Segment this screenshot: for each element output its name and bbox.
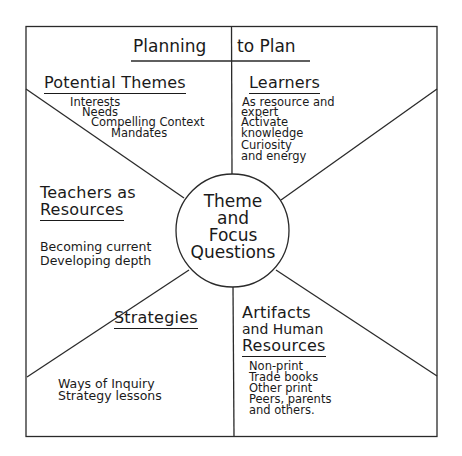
artifacts-item: and others. [249,405,315,416]
teachers-heading-line1: Teachers as [40,185,136,201]
bottom-divider [233,287,234,436]
teachers-heading-line2: Resources [40,202,124,221]
potential-themes-heading: Potential Themes [44,75,186,94]
center-line: Questions [182,244,284,261]
strategies-heading: Strategies [114,310,198,329]
center-label: Theme and Focus Questions [182,193,284,261]
learners-item: and energy [241,151,306,162]
teachers-item: Becoming current [40,241,151,252]
top-divider [232,26,233,174]
learners-heading: Learners [249,75,320,94]
title-right: to Plan [237,38,296,55]
title-left: Planning [133,38,206,55]
potential-themes-item: Mandates [111,128,167,139]
artifacts-heading-line2: and Human [242,322,323,336]
artifacts-heading-line3: Resources [242,338,326,357]
artifacts-heading-line1: Artifacts [242,305,311,321]
strategies-item: Strategy lessons [58,390,162,401]
teachers-item: Developing depth [40,255,151,266]
